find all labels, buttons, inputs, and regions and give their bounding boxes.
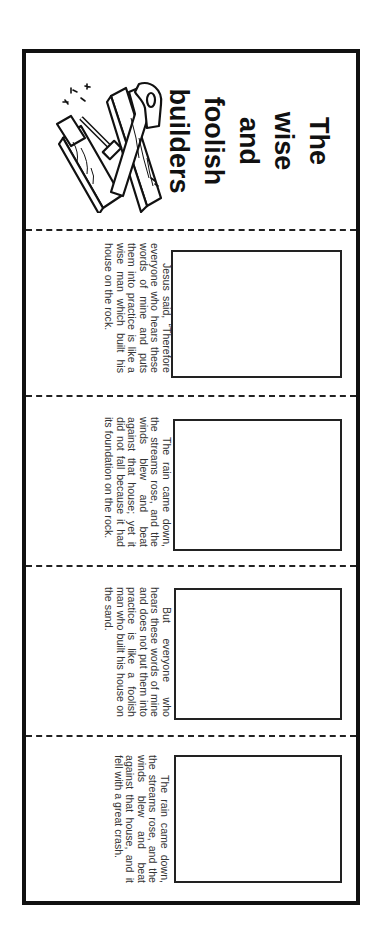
cover-panel: The wise and foolish builders: [26, 53, 356, 229]
drawing-box[interactable]: [174, 755, 342, 883]
tools-and-planks-illustration: [51, 78, 181, 213]
title-line: The: [301, 53, 336, 229]
title-line: foolish: [196, 53, 231, 229]
drawing-box[interactable]: [171, 250, 342, 378]
story-text: But everyone who hears these words of mi…: [102, 587, 172, 717]
booklet-page: The wise and foolish builders: [22, 49, 360, 905]
story-panel-1: Jesus said, “Therefore everyone who hear…: [26, 231, 356, 395]
title-line: wise: [266, 53, 301, 229]
drawing-box[interactable]: [174, 588, 342, 720]
story-text: The rain came down, the streams rose, an…: [112, 755, 170, 883]
title-line: and: [231, 53, 266, 229]
story-text: Jesus said, “Therefore everyone who hear…: [102, 243, 172, 373]
story-panel-4: The rain came down, the streams rose, an…: [26, 737, 356, 901]
drawing-box[interactable]: [173, 419, 342, 551]
story-panel-2: The rain came down, the streams rose, an…: [26, 397, 356, 565]
story-panel-3: But everyone who hears these words of mi…: [26, 567, 356, 735]
booklet-title: The wise and foolish builders: [161, 53, 336, 229]
story-text: The rain came down, the streams rose, an…: [102, 417, 172, 547]
